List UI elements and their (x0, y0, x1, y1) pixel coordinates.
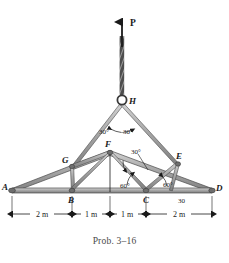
node-label-C: C (143, 195, 150, 205)
truss-figure: P (0, 0, 229, 263)
load-label-P: P (130, 18, 136, 28)
dim-label-1: 2 m (36, 210, 49, 219)
angle-label-C-right: 60° (163, 181, 173, 189)
dim-label-4: 2 m (173, 210, 186, 219)
node-label-B: B (67, 195, 74, 205)
node-label-D: D (215, 183, 223, 193)
node-label-E: E (175, 151, 182, 161)
node-label-H: H (128, 96, 137, 106)
angle-label-C-left: 60° (120, 182, 130, 190)
angle-label-F-right: 30° (131, 148, 141, 156)
figure-caption: Prob. 3–16 (0, 236, 229, 246)
pin-H (117, 95, 126, 104)
node-label-A: A (1, 182, 8, 192)
dim-label-3: 1 m (121, 210, 134, 219)
joint-pins (9, 150, 216, 193)
node-label-G: G (62, 155, 69, 165)
angle-label-D-30: 30 (178, 197, 186, 205)
node-label-F: F (104, 139, 111, 149)
dim-label-2: 1 m (85, 210, 98, 219)
truss-diagram: P (0, 0, 229, 263)
angle-label-H-right: 30° (123, 128, 133, 136)
bottom-chord (12, 188, 212, 193)
arc-H-left (111, 129, 122, 133)
angle-label-H-left: 30° (99, 128, 109, 136)
member-A-D-bottom (12, 188, 212, 193)
